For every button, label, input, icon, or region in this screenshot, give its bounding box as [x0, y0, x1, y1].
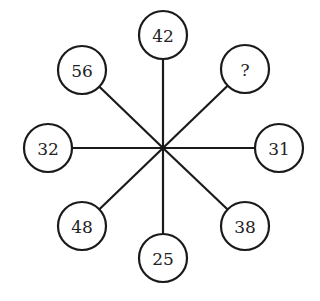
node-label: 32: [37, 139, 59, 159]
node-label: 48: [71, 217, 93, 237]
node-top: 42: [139, 11, 187, 59]
unknown-value-label: ?: [240, 60, 249, 80]
node-label: 38: [234, 217, 256, 237]
node-right: 31: [255, 124, 303, 172]
node-top-right-unknown: ?: [221, 45, 269, 93]
node-label: 56: [71, 61, 93, 81]
number-wheel-diagram: 42 ? 31 38 25 48 32 56: [0, 0, 320, 301]
node-left: 32: [24, 124, 72, 172]
node-label: 31: [268, 139, 290, 159]
node-top-left: 56: [58, 46, 106, 94]
node-bottom-right: 38: [221, 202, 269, 250]
node-label: 42: [152, 26, 174, 46]
node-bottom: 25: [139, 234, 187, 282]
node-label: 25: [152, 249, 174, 269]
node-bottom-left: 48: [58, 202, 106, 250]
